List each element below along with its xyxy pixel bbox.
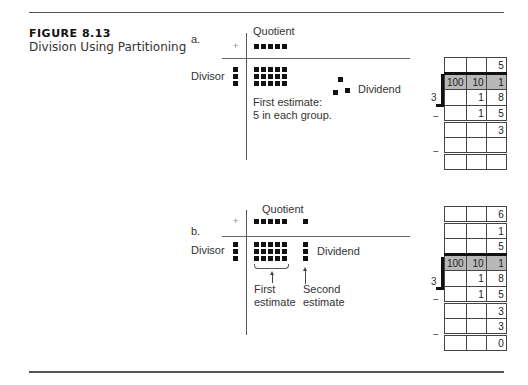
table-row: 18 <box>445 90 507 106</box>
top-rule <box>29 12 504 13</box>
part-b-label: b. <box>191 225 200 237</box>
table-row: 15 <box>445 106 507 122</box>
header-row: 100 10 1 <box>445 74 507 90</box>
first-estimate-arrowhead <box>270 271 274 275</box>
plus-sign: + <box>233 41 238 51</box>
first-estimate-label-2: estimate <box>254 296 296 308</box>
quotient-row: 6 <box>445 207 507 223</box>
quotient-label: Quotient <box>253 25 295 37</box>
quotient-blocks <box>254 219 287 224</box>
divisor-label: Divisor <box>191 70 225 82</box>
first-estimate-arrow <box>272 274 273 283</box>
quotient-row: 5 <box>445 58 507 74</box>
table-row: 3 <box>445 319 507 335</box>
first-estimate-note-2: 5 in each group. <box>253 109 332 121</box>
second-estimate-label-2: estimate <box>303 296 345 308</box>
division-bracket <box>441 257 444 289</box>
table-row: 18 <box>445 271 507 287</box>
quotient-row: 5 <box>445 239 507 255</box>
first-estimate-label: First <box>254 283 275 295</box>
figure-number: FIGURE 8.13 <box>29 27 111 40</box>
first-estimate-note: First estimate: <box>253 96 322 108</box>
second-estimate-arrow <box>305 270 306 284</box>
table-row: 15 <box>445 287 507 303</box>
second-group-blocks <box>303 242 308 261</box>
table-row <box>445 154 507 170</box>
dividend-label: Dividend <box>358 83 401 95</box>
horizontal-axis <box>222 236 410 237</box>
second-estimate-label: Second <box>303 283 340 295</box>
divisor-label: Divisor <box>191 244 225 256</box>
quotient-row: 1 <box>445 223 507 239</box>
minus-sign: − <box>433 294 439 305</box>
division-bracket-foot <box>436 104 444 107</box>
header-row: 100 10 1 <box>445 255 507 271</box>
minus-sign: − <box>433 329 439 340</box>
minus-sign: − <box>433 111 439 122</box>
vertical-axis <box>246 210 247 335</box>
bottom-rule <box>29 371 504 373</box>
second-estimate-arrowhead <box>303 267 307 271</box>
vertical-axis <box>246 33 247 160</box>
quotient-blocks <box>254 44 287 49</box>
table-row: 3 <box>445 122 507 138</box>
horizontal-axis <box>222 58 410 59</box>
dividend-label: Dividend <box>317 245 360 257</box>
quotient-label: Quotient <box>262 203 304 215</box>
table-row: 0 <box>445 335 507 351</box>
minus-sign: − <box>433 146 439 157</box>
divisor-blocks <box>233 242 238 261</box>
division-bracket <box>441 74 444 107</box>
figure-title: Division Using Partitioning <box>29 40 186 54</box>
division-bracket-foot <box>436 287 444 290</box>
first-estimate-brace <box>254 264 289 269</box>
table-row: 3 <box>445 303 507 319</box>
divisor-value: 3 <box>431 92 437 103</box>
quotient-extra-block <box>303 219 308 224</box>
plus-sign: + <box>233 216 238 226</box>
divisor-value: 3 <box>431 276 437 287</box>
part-a-label: a. <box>191 33 200 45</box>
table-row <box>445 138 507 154</box>
divisor-blocks <box>233 67 238 86</box>
